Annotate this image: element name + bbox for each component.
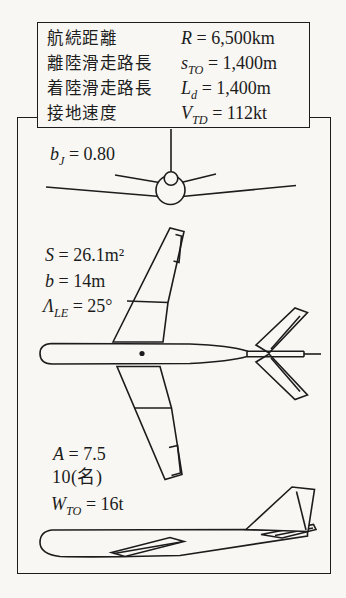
label-sweep-angle: ΛLE = 25° bbox=[43, 296, 113, 320]
textbook-figure: 航続距離 R = 6,500km 離陸滑走路長 sTO = 1,400m 着陸滑… bbox=[0, 0, 346, 598]
spec-row-range: 航続距離 R = 6,500km bbox=[47, 26, 309, 51]
plan-stab-upper bbox=[256, 308, 308, 353]
front-engine-circle bbox=[164, 172, 178, 186]
spec-label: 航続距離 bbox=[47, 26, 181, 51]
label-capacity: 10(名) bbox=[52, 467, 103, 491]
spec-label: 着陸滑走路長 bbox=[47, 76, 181, 101]
spec-row-takeoff-runway: 離陸滑走路長 sTO = 1,400m bbox=[47, 51, 309, 76]
spec-table: 航続距離 R = 6,500km 離陸滑走路長 sTO = 1,400m 着陸滑… bbox=[37, 22, 310, 128]
spec-label: 離陸滑走路長 bbox=[47, 51, 181, 76]
plan-cg-dot bbox=[139, 351, 144, 356]
label-aspect-ratio: A = 7.5 bbox=[53, 444, 106, 468]
label-bypass-ratio: bJ = 0.80 bbox=[50, 144, 115, 168]
plan-wing-lower bbox=[117, 367, 182, 480]
spec-value: VTD = 112kt bbox=[181, 101, 267, 133]
plan-stab-lower bbox=[256, 354, 308, 400]
spec-row-landing-runway: 着陸滑走路長 Ld = 1,400m bbox=[47, 76, 309, 101]
label-wing-span: b = 14m bbox=[45, 271, 105, 295]
front-wing-right bbox=[182, 186, 296, 197]
label-takeoff-weight: WTO = 16t bbox=[51, 494, 124, 518]
front-wing-left bbox=[46, 187, 160, 197]
label-wing-area: S = 26.1m² bbox=[45, 245, 124, 269]
spec-label: 接地速度 bbox=[47, 101, 181, 126]
